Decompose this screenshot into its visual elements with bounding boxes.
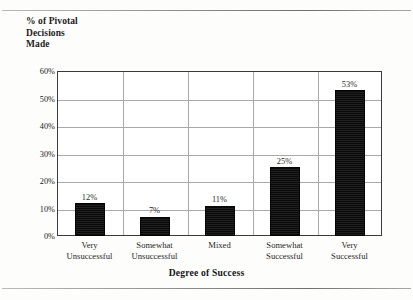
bar-value-label: 25% <box>277 157 292 166</box>
bar <box>75 203 105 236</box>
y-axis-tick-label: 10% <box>40 204 55 213</box>
bar-chart: 0%10%20%30%40%50%60% 12%7%11%25%53% Very… <box>0 0 413 300</box>
y-axis-tick-label: 40% <box>40 122 55 131</box>
bar-group: 12% <box>57 71 122 236</box>
bar-group: 7% <box>122 71 187 236</box>
bar-value-label: 11% <box>212 195 227 204</box>
x-axis-tick-labels: Very UnsuccessfulSomewhat UnsuccessfulMi… <box>57 240 382 268</box>
bar <box>140 217 170 236</box>
bar <box>205 206 235 236</box>
bar-value-label: 53% <box>342 80 357 89</box>
bar <box>335 90 365 236</box>
y-axis-tick-label: 20% <box>40 177 55 186</box>
y-axis-tick-labels: 0%10%20%30%40%50%60% <box>22 71 55 236</box>
y-axis-tick-label: 30% <box>40 149 55 158</box>
y-axis-tick-label: 0% <box>44 232 55 241</box>
x-axis-tick-label: Somewhat Unsuccessful <box>122 240 187 262</box>
x-axis-tick-label: Somewhat Successful <box>252 240 317 262</box>
bar-group: 11% <box>187 71 252 236</box>
bar-value-label: 7% <box>149 206 160 215</box>
bar-group: 25% <box>252 71 317 236</box>
x-axis-tick-label: Mixed <box>187 240 252 251</box>
bars-layer: 12%7%11%25%53% <box>57 71 382 236</box>
bar <box>270 167 300 236</box>
x-axis-tick-label: Very Successful <box>317 240 382 262</box>
scanned-page: % of Pivotal Decisions Made 0%10%20%30%4… <box>0 0 413 300</box>
y-axis-tick-label: 60% <box>40 67 55 76</box>
x-axis-title: Degree of Success <box>0 267 413 278</box>
y-axis-tick-label: 50% <box>40 94 55 103</box>
bar-value-label: 12% <box>82 193 97 202</box>
bar-group: 53% <box>317 71 382 236</box>
x-axis-tick-label: Very Unsuccessful <box>57 240 122 262</box>
